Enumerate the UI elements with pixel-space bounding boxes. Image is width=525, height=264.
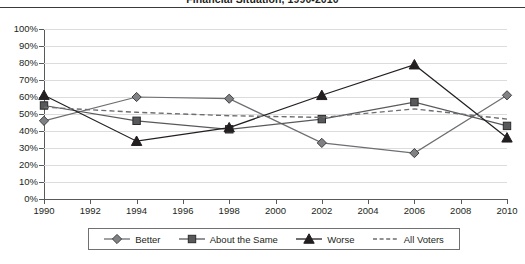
legend-item-label: About the Same xyxy=(210,234,278,245)
legend-item-label: All Voters xyxy=(404,234,444,245)
legend-item-label: Better xyxy=(135,234,160,245)
series-line xyxy=(44,102,507,129)
legend-item-worse[interactable]: Worse xyxy=(296,233,354,245)
square-marker-icon xyxy=(188,235,195,242)
diamond-marker-icon xyxy=(317,138,326,147)
chart-container: Financial Situation, 1990-2010 0%10%20%3… xyxy=(0,0,525,264)
dashed-line-icon xyxy=(373,233,399,245)
series-worse xyxy=(39,60,512,146)
triangle-marker-icon xyxy=(317,90,327,99)
diamond-marker-icon xyxy=(39,116,48,125)
square-marker-icon xyxy=(179,233,205,245)
diamond-marker-icon xyxy=(113,234,122,243)
diamond-marker-icon xyxy=(502,91,511,100)
diamond-marker-icon xyxy=(104,233,130,245)
series-plot-layer xyxy=(0,0,525,264)
square-marker-icon xyxy=(503,122,510,129)
square-marker-icon xyxy=(40,102,47,109)
legend-item-all-voters[interactable]: All Voters xyxy=(373,233,444,245)
diamond-marker-icon xyxy=(410,149,419,158)
square-marker-icon xyxy=(411,98,418,105)
square-marker-icon xyxy=(133,117,140,124)
triangle-marker-icon xyxy=(39,90,49,99)
legend-item-about-the-same[interactable]: About the Same xyxy=(179,233,278,245)
chart-legend: BetterAbout the SameWorseAll Voters xyxy=(88,228,460,250)
triangle-marker-icon xyxy=(502,133,512,142)
legend-item-better[interactable]: Better xyxy=(104,233,160,245)
diamond-marker-icon xyxy=(132,92,141,101)
legend-item-label: Worse xyxy=(327,234,354,245)
diamond-marker-icon xyxy=(225,94,234,103)
triangle-marker-icon xyxy=(296,233,322,245)
triangle-marker-icon xyxy=(409,60,419,69)
